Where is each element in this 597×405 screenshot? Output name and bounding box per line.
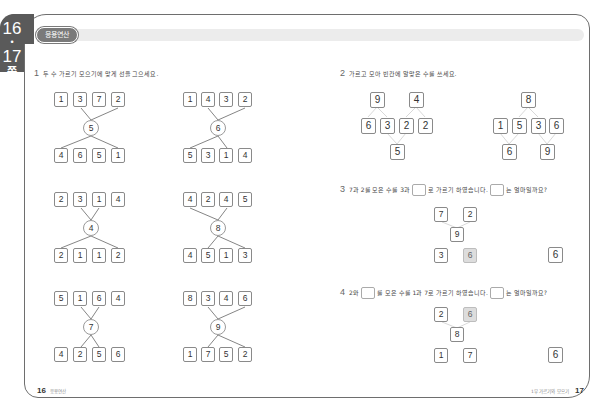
side-tab-label: 16 • 17 쪽	[0, 20, 24, 78]
number-box: 7	[201, 347, 215, 362]
left-page-number: 16	[37, 386, 46, 395]
number-box: 5	[183, 148, 197, 163]
number-box: 5	[238, 192, 252, 207]
blank-box	[361, 287, 375, 299]
number-box: 1	[73, 291, 87, 306]
number-box: 2	[434, 307, 448, 322]
number-box: 1	[493, 118, 508, 134]
header-band	[36, 29, 584, 41]
unknown-box: 6	[463, 307, 477, 322]
number-box: 1	[434, 348, 448, 363]
number-box: 7	[434, 207, 448, 222]
number-box: 4	[219, 192, 233, 207]
problem-number: 1	[34, 68, 39, 78]
left-footer-label: 응용연산	[50, 388, 66, 394]
answer-box[interactable]: 6	[548, 247, 563, 263]
number-box: 5	[219, 347, 233, 362]
number-box: 2	[238, 347, 252, 362]
number-box: 3	[73, 92, 87, 107]
number-box: 2	[111, 248, 125, 263]
number-box: 4	[54, 148, 68, 163]
sum-circle: 5	[83, 120, 99, 136]
number-box: 5	[390, 144, 405, 160]
number-box: 2	[54, 248, 68, 263]
number-box: 2	[418, 118, 433, 134]
number-box: 3	[380, 118, 395, 134]
number-box: 1	[183, 347, 197, 362]
sum-circle: 9	[210, 319, 226, 335]
number-box: 2	[238, 92, 252, 107]
problem-4-question: 42와를 모은 수를 1과 7로 가르기 하였습니다.는 얼마일까요?	[340, 287, 547, 299]
number-box: 6	[73, 148, 87, 163]
number-box: 1	[92, 248, 106, 263]
number-box: 3	[434, 248, 448, 263]
page-suffix: 쪽	[0, 67, 24, 78]
number-box: 2	[201, 192, 215, 207]
sum-box: 9	[450, 227, 464, 242]
number-box: 2	[111, 92, 125, 107]
instruction-text: 두 수 가르기 모으기에 맞게 선을 그으세요.	[43, 70, 158, 77]
number-box: 1	[183, 92, 197, 107]
number-box: 5	[92, 148, 106, 163]
page-number-a: 16	[0, 20, 24, 37]
question-text-a: 7과 2를 모은 수를 3과	[349, 186, 410, 193]
number-box: 3	[73, 192, 87, 207]
right-footer-label: 1부 가르기와 모으기	[531, 388, 569, 394]
number-box: 6	[111, 347, 125, 362]
number-box: 4	[201, 92, 215, 107]
problem-number: 3	[340, 184, 345, 194]
number-box: 2	[73, 347, 87, 362]
right-page-number: 17	[575, 386, 584, 395]
answer-box[interactable]: 6	[548, 347, 563, 363]
number-box: 4	[54, 347, 68, 362]
question-text-b: 로 가르기 하였습니다.	[428, 186, 488, 193]
problem-2-instruction: 2가르고 모아 빈칸에 알맞은 수를 쓰세요.	[340, 68, 456, 78]
number-box: 6	[502, 144, 517, 160]
problem-1-instruction: 1두 수 가르기 모으기에 맞게 선을 그으세요.	[34, 68, 158, 78]
number-box: 4	[183, 192, 197, 207]
number-box: 3	[201, 148, 215, 163]
number-box: 4	[183, 248, 197, 263]
page-number-b: 17	[0, 48, 24, 65]
number-box: 1	[54, 92, 68, 107]
number-box: 6	[238, 291, 252, 306]
number-box: 2	[463, 207, 477, 222]
sum-circle: 4	[83, 220, 99, 236]
number-box: 5	[54, 291, 68, 306]
sum-circle: 7	[83, 319, 99, 335]
blank-box	[490, 184, 504, 196]
question-text-c: 는 얼마일까요?	[506, 186, 547, 193]
number-box: 6	[549, 118, 564, 134]
number-box: 4	[219, 291, 233, 306]
number-box: 7	[463, 348, 477, 363]
number-box: 1	[73, 248, 87, 263]
section-label: 응용연산	[36, 27, 78, 43]
sum-box: 8	[450, 327, 464, 342]
number-box: 6	[92, 291, 106, 306]
number-box: 4	[111, 291, 125, 306]
question-text-b: 를 모은 수를 1과 7로 가르기 하였습니다.	[377, 289, 488, 296]
number-box: 2	[54, 192, 68, 207]
number-box: 8	[521, 92, 536, 108]
number-box: 3	[201, 291, 215, 306]
problem-number: 2	[340, 68, 345, 78]
sum-circle: 6	[210, 120, 226, 136]
number-box: 1	[92, 192, 106, 207]
unknown-box: 6	[463, 248, 477, 263]
blank-box	[412, 184, 426, 196]
separator-dot: •	[0, 38, 24, 47]
sum-circle: 8	[210, 220, 226, 236]
number-box: 5	[201, 248, 215, 263]
instruction-text: 가르고 모아 빈칸에 알맞은 수를 쓰세요.	[349, 70, 456, 77]
number-box: 3	[238, 248, 252, 263]
number-box: 1	[219, 248, 233, 263]
number-box: 4	[238, 148, 252, 163]
problem-number: 4	[340, 287, 345, 297]
number-box: 5	[92, 347, 106, 362]
number-box: 3	[531, 118, 546, 134]
number-box: 9	[540, 144, 555, 160]
problem-3-question: 37과 2를 모은 수를 3과로 가르기 하였습니다.는 얼마일까요?	[340, 184, 547, 196]
number-box: 6	[361, 118, 376, 134]
number-box: 4	[409, 92, 424, 108]
question-text-c: 는 얼마일까요?	[506, 289, 547, 296]
